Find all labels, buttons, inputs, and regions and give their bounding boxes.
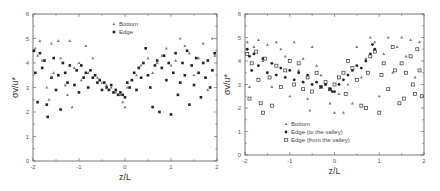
data-point-marker (89, 69, 92, 72)
x-tick-label: -1 (287, 158, 293, 164)
y-tick-label: 6 (26, 11, 30, 17)
data-point-marker (344, 92, 347, 95)
data-point-marker (257, 78, 260, 81)
data-point-marker (275, 74, 278, 77)
data-point-marker (177, 94, 180, 97)
data-point-marker (329, 102, 332, 105)
data-point-marker (85, 72, 88, 75)
data-point-marker (147, 74, 150, 77)
data-point-marker (186, 49, 189, 52)
data-point-marker (71, 106, 74, 109)
y-tick-label: 3 (238, 82, 242, 88)
data-point-marker (59, 57, 62, 60)
data-point-marker (378, 111, 381, 114)
legend: BottomEdge (113, 21, 139, 35)
data-point-marker (38, 39, 41, 42)
data-point-marker (167, 62, 170, 65)
data-point-marker (108, 89, 111, 92)
data-point-marker (248, 85, 251, 88)
data-point-marker (69, 64, 72, 67)
data-point-marker (149, 86, 152, 89)
data-point-marker (288, 60, 291, 63)
data-point-marker (209, 86, 212, 89)
data-point-marker (380, 74, 383, 77)
data-point-marker (202, 42, 205, 45)
legend-marker (113, 22, 116, 25)
data-point-marker (154, 64, 157, 67)
right-scatter-chart: -2-10120123456z/Lσv/u*BottomEdge (to the… (220, 0, 440, 191)
series-edge-to-the-valley- (246, 43, 376, 93)
data-point-marker (73, 84, 76, 87)
data-point-marker (311, 45, 314, 48)
data-point-marker (355, 64, 358, 67)
data-point-marker (128, 86, 131, 89)
data-point-marker (266, 71, 269, 74)
data-point-marker (418, 69, 421, 72)
data-point-marker (147, 57, 150, 60)
data-point-marker (279, 48, 282, 51)
data-point-marker (360, 76, 363, 79)
data-point-marker (110, 84, 113, 87)
data-point-marker (73, 66, 76, 69)
data-point-marker (387, 36, 390, 39)
data-point-marker (64, 72, 67, 75)
data-point-marker (333, 83, 336, 86)
x-tick-label: 2 (422, 158, 426, 164)
data-point-marker (270, 104, 273, 107)
data-point-marker (197, 72, 200, 75)
figure: -2-10120123456z/Lσv/u*BottomEdge -2-1012… (0, 0, 440, 191)
data-point-marker (66, 81, 69, 84)
legend-label: Bottom (119, 21, 138, 27)
y-tick-label: 1 (26, 134, 30, 140)
data-point-marker (293, 83, 296, 86)
data-point-marker (346, 83, 349, 86)
y-tick-label: 5 (26, 36, 30, 42)
data-point-marker (411, 83, 414, 86)
legend: BottomEdge (to the valley)Edge (from the… (285, 121, 350, 143)
x-tick-label: 0 (333, 158, 337, 164)
data-point-marker (33, 49, 36, 52)
data-point-marker (78, 91, 81, 94)
data-point-marker (347, 74, 350, 77)
data-point-marker (297, 62, 300, 65)
y-axis-title: σv/u* (10, 76, 20, 98)
data-point-marker (266, 43, 269, 46)
data-point-marker (351, 102, 354, 105)
data-point-marker (252, 45, 255, 48)
legend-label: Edge (119, 29, 134, 35)
data-point-marker (133, 72, 136, 75)
data-point-marker (355, 45, 358, 48)
y-tick-label: 6 (238, 11, 242, 17)
data-point-marker (84, 44, 87, 47)
data-point-marker (320, 74, 323, 77)
series-bottom (246, 36, 421, 114)
data-point-marker (311, 83, 314, 86)
data-point-marker (68, 39, 71, 42)
data-point-marker (311, 90, 314, 93)
y-tick-label: 0 (238, 152, 242, 158)
series-edge-from-the-valley- (246, 45, 424, 114)
data-point-marker (55, 89, 58, 92)
data-point-marker (416, 48, 419, 51)
data-point-marker (200, 96, 203, 99)
data-point-marker (121, 101, 124, 104)
data-point-marker (36, 101, 39, 104)
data-point-marker (398, 102, 401, 105)
data-point-marker (297, 69, 300, 72)
y-tick-label: 5 (238, 35, 242, 41)
data-point-marker (179, 81, 182, 84)
data-point-marker (257, 64, 260, 67)
data-point-marker (78, 61, 81, 64)
data-point-marker (121, 94, 124, 97)
data-point-marker (246, 52, 249, 55)
y-tick-label: 4 (26, 60, 30, 66)
data-point-marker (75, 69, 78, 72)
data-point-marker (364, 60, 367, 63)
data-point-marker (402, 97, 405, 100)
data-point-marker (337, 76, 340, 79)
data-point-marker (126, 81, 129, 84)
data-point-marker (257, 38, 260, 41)
data-point-marker (302, 57, 305, 60)
data-point-marker (80, 64, 83, 67)
data-point-marker (279, 85, 282, 88)
